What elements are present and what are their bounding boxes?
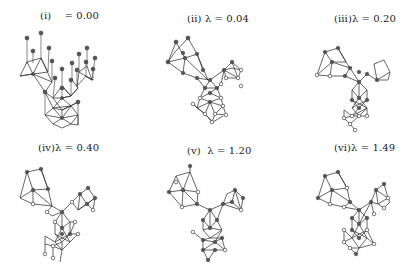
nodes: [315, 46, 379, 132]
graph-embedding: [0, 132, 135, 264]
edges: [20, 169, 95, 262]
panel-v: (v) λ = 1.20: [135, 132, 270, 264]
edges: [317, 48, 390, 130]
panel-iv: (iv)λ = 0.40: [0, 132, 135, 264]
stems: [27, 33, 95, 125]
edges: [168, 38, 241, 122]
panel-vi: (vi)λ = 1.49: [270, 132, 405, 264]
graph-embedding: [135, 0, 270, 132]
graph-embedding: [270, 132, 406, 264]
edges: [169, 166, 243, 260]
graph-embedding: [270, 0, 406, 132]
graph-embedding: [135, 132, 270, 264]
nodes: [316, 170, 390, 256]
panel-iii: (iii)λ = 0.20: [270, 0, 405, 132]
edges: [20, 58, 93, 128]
panel-ii: (ii) λ = 0.04: [135, 0, 270, 132]
graph-embedding: [0, 0, 135, 132]
panel-i: (i) = 0.00: [0, 0, 135, 132]
edges: [318, 172, 390, 254]
nodes: [25, 167, 97, 260]
nodes: [167, 164, 245, 262]
